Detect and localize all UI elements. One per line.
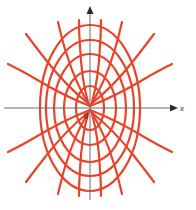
- x-axis-arrowhead: [170, 105, 178, 112]
- y-axis-arrowhead: [87, 6, 94, 14]
- confocal-coordinates-figure: x 0: [0, 0, 196, 210]
- plot-canvas: x 0: [0, 0, 196, 210]
- origin-label: 0: [84, 111, 89, 121]
- x-axis-label: x: [179, 103, 184, 113]
